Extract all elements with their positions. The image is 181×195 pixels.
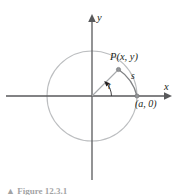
y-axis-label: y [97, 13, 102, 24]
x-axis-arrowhead [164, 92, 172, 100]
point-p-label: P(x, y) [110, 52, 138, 63]
point-p-marker [116, 67, 120, 71]
y-axis-arrowhead [88, 14, 96, 22]
arc-length-label: s [131, 72, 135, 82]
figure-container: y x P(x, y) s t (a, 0) ▲ Figure 12.3.1 [0, 0, 181, 195]
figure-caption: ▲ Figure 12.3.1 [6, 187, 67, 195]
angle-label: t [108, 82, 111, 92]
x-axis-label: x [164, 82, 169, 93]
point-a-label: (a, 0) [135, 99, 157, 109]
